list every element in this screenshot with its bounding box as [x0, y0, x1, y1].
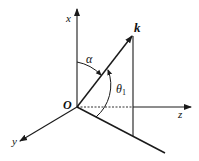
k-vector-label: k — [134, 20, 141, 35]
y-axis-label: y — [11, 135, 17, 147]
x-axis-label: x — [65, 12, 71, 24]
alpha-label: α — [86, 52, 93, 66]
theta-arc — [96, 70, 111, 117]
diagram-canvas: x k α θ1 O z y — [0, 0, 199, 161]
origin-label: O — [63, 98, 72, 112]
projection-line — [77, 107, 165, 153]
y-axis — [20, 107, 77, 141]
z-axis-label: z — [177, 108, 183, 120]
theta-subscript: 1 — [122, 88, 126, 97]
theta-label: θ1 — [116, 82, 126, 97]
